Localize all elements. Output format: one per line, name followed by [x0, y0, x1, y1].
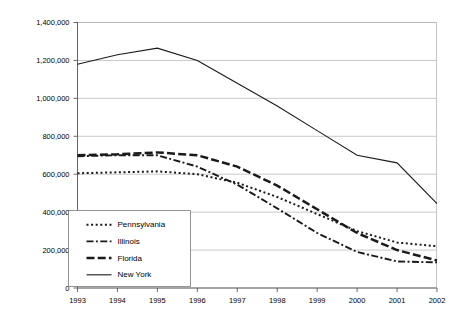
x-axis-tick-label: 1997 — [229, 296, 246, 305]
legend-label: Pennsylvania — [118, 220, 166, 229]
y-axis-tick-label: 400,000 — [42, 208, 69, 217]
y-axis-tick-label: 1,400,000 — [36, 18, 69, 27]
legend-label: New York — [118, 270, 153, 279]
legend-label: Florida — [118, 254, 143, 263]
y-axis-tick-label: 1,200,000 — [36, 56, 69, 65]
legend-label: Illinois — [118, 237, 140, 246]
chart-canvas: 0200,000400,000600,000800,0001,000,0001,… — [0, 0, 467, 322]
y-axis-tick-label: 800,000 — [42, 132, 69, 141]
y-axis-tick-label: 1,000,000 — [36, 94, 69, 103]
x-axis-tick-label: 1995 — [149, 296, 166, 305]
x-axis-tick-label: 1999 — [309, 296, 326, 305]
x-axis-tick-label: 1994 — [109, 296, 126, 305]
x-axis-tick-label: 2001 — [389, 296, 406, 305]
x-axis-tick-label: 2002 — [429, 296, 446, 305]
x-axis-tick-label: 2000 — [349, 296, 366, 305]
y-axis-tick-label: 600,000 — [42, 170, 69, 179]
x-axis-tick-label: 1993 — [69, 296, 86, 305]
x-axis-tick-label: 1996 — [189, 296, 206, 305]
x-axis-tick-label: 1998 — [269, 296, 286, 305]
y-axis-tick-label: 200,000 — [42, 246, 69, 255]
line-chart: 0200,000400,000600,000800,0001,000,0001,… — [0, 0, 467, 322]
chart-legend: PennsylvaniaIllinoisFloridaNew York — [69, 211, 191, 287]
